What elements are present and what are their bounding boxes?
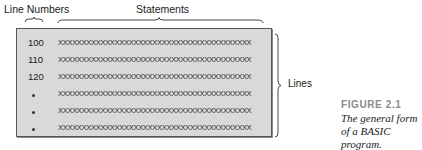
lines-brace-icon [274, 33, 284, 139]
figure-number: FIGURE 2.1 [341, 99, 401, 110]
ellipsis-marker [17, 88, 57, 99]
ellipsis-marker [17, 122, 57, 133]
statement-text: XXXXXXXXXXXXXXXXXXXXXXXXXXXXXXXXXXXXXXXX… [57, 106, 251, 115]
statement-text: XXXXXXXXXXXXXXXXXXXXXXXXXXXXXXXXXXXXXXXX… [57, 55, 251, 64]
statement-text: XXXXXXXXXXXXXXXXXXXXXXXXXXXXXXXXXXXXXXXX… [57, 123, 251, 132]
program-line: XXXXXXXXXXXXXXXXXXXXXXXXXXXXXXXXXXXXXXXX… [17, 86, 251, 100]
program-line: 110 XXXXXXXXXXXXXXXXXXXXXXXXXXXXXXXXXXXX… [17, 52, 251, 66]
dot-icon [32, 94, 35, 97]
lines-label: Lines [288, 78, 312, 89]
program-line: 120 XXXXXXXXXXXXXXXXXXXXXXXXXXXXXXXXXXXX… [17, 69, 251, 83]
line-numbers-brace-icon [24, 17, 44, 23]
statement-text: XXXXXXXXXXXXXXXXXXXXXXXXXXXXXXXXXXXXXXXX… [57, 72, 251, 81]
program-line: XXXXXXXXXXXXXXXXXXXXXXXXXXXXXXXXXXXXXXXX… [17, 120, 251, 134]
statement-text: XXXXXXXXXXXXXXXXXXXXXXXXXXXXXXXXXXXXXXXX… [57, 38, 251, 47]
program-listing-box: 100 XXXXXXXXXXXXXXXXXXXXXXXXXXXXXXXXXXXX… [16, 28, 272, 137]
ellipsis-marker [17, 105, 57, 116]
line-number: 100 [17, 37, 57, 48]
statements-label: Statements [136, 3, 189, 15]
statement-text: XXXXXXXXXXXXXXXXXXXXXXXXXXXXXXXXXXXXXXXX… [57, 89, 251, 98]
line-number: 120 [17, 71, 57, 82]
dot-icon [32, 111, 35, 114]
line-numbers-label: Line Numbers [4, 3, 69, 15]
program-line: 100 XXXXXXXXXXXXXXXXXXXXXXXXXXXXXXXXXXXX… [17, 35, 251, 49]
line-number: 110 [17, 54, 57, 65]
figure-caption: The general form of a BASIC program. [341, 112, 422, 150]
program-line: XXXXXXXXXXXXXXXXXXXXXXXXXXXXXXXXXXXXXXXX… [17, 103, 251, 117]
dot-icon [32, 128, 35, 131]
statements-brace-icon [57, 17, 267, 24]
